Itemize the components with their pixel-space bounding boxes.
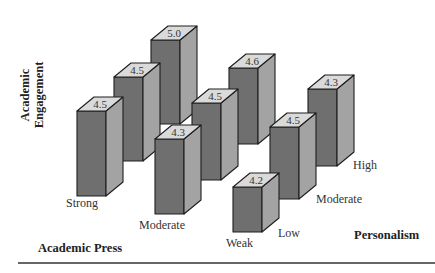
bar-weak-low: 4.2 <box>233 173 279 232</box>
bar-side-face <box>221 89 238 180</box>
bar-side-face <box>184 125 201 214</box>
bar-side-face <box>299 113 316 199</box>
y-axis-title-line1: Academic <box>18 68 32 121</box>
y-axis-title-line2: Engagement <box>32 61 46 129</box>
3d-bar-chart: 5.04.64.54.34.54.54.54.34.2 Academic Eng… <box>0 0 435 273</box>
bar-value-label: 4.3 <box>171 126 185 138</box>
bar-value-label: 4.5 <box>208 90 222 102</box>
press-tick-label: Strong <box>66 196 98 210</box>
z-axis-title: Personalism <box>354 228 420 242</box>
personalism-tick-label: High <box>353 158 377 172</box>
bottom-rule <box>18 262 435 264</box>
press-tick-label: Weak <box>226 236 253 250</box>
press-tick-label: Moderate <box>139 218 185 232</box>
bar-value-label: 4.5 <box>286 114 300 126</box>
bar-front-face <box>77 111 106 196</box>
bar-front-face <box>155 139 184 214</box>
bar-moderate-low: 4.3 <box>155 125 201 214</box>
bar-value-label: 4.3 <box>324 76 338 88</box>
bar-front-face <box>233 187 262 232</box>
bar-value-label: 4.5 <box>93 98 107 110</box>
x-axis-title: Academic Press <box>38 241 122 255</box>
bar-value-label: 4.5 <box>130 64 144 76</box>
bar-strong-low: 4.5 <box>77 97 123 196</box>
bar-value-label: 4.6 <box>245 55 259 67</box>
personalism-tick-label: Low <box>278 226 300 240</box>
bar-side-face <box>106 97 123 196</box>
bar-side-face <box>337 75 354 166</box>
personalism-tick-label: Moderate <box>316 192 362 206</box>
bar-value-label: 4.2 <box>249 174 263 186</box>
bar-value-label: 5.0 <box>167 27 181 39</box>
y-axis-title: Academic Engagement <box>18 61 46 129</box>
bars-group: 5.04.64.54.34.54.54.54.34.2 <box>77 26 354 232</box>
